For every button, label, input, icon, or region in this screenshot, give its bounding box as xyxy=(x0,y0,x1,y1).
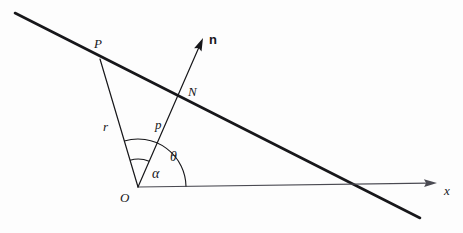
geometry-diagram-canvas: P N O r p θ α x n xyxy=(0,0,463,233)
x-axis-line xyxy=(138,183,428,187)
label-point-p: P xyxy=(94,37,102,50)
label-vector-n: n xyxy=(209,33,217,46)
label-angle-theta: θ xyxy=(170,150,177,164)
segment-on-normal xyxy=(138,45,200,187)
label-point-o-origin: O xyxy=(120,191,129,204)
geometry-figure xyxy=(0,0,463,233)
label-axis-x: x xyxy=(444,184,450,197)
label-length-p: p xyxy=(155,118,162,131)
label-point-n: N xyxy=(188,85,197,98)
label-angle-alpha: α xyxy=(152,167,159,181)
main-line-through-p-and-n xyxy=(15,13,420,218)
angle-arc-alpha xyxy=(130,159,149,161)
label-length-r: r xyxy=(103,120,108,133)
